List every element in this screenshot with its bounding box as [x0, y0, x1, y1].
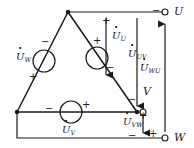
- terminal-w-ring: [162, 135, 168, 141]
- label-source-u: UU: [112, 31, 126, 42]
- sign-v-terminal-minus: −: [128, 95, 136, 105]
- phasor-dot-icon: [126, 112, 128, 114]
- sign-left-source-plus: +: [29, 72, 37, 82]
- sign-u-terminal-minus: −: [152, 6, 160, 16]
- line-wu-base: U: [140, 62, 148, 73]
- terminal-label-w: W: [174, 132, 185, 143]
- label-source-w: UW: [16, 52, 31, 63]
- terminal-label-v: V: [143, 86, 151, 97]
- line-wu-sub: WU: [148, 67, 160, 75]
- source-u-circle: [86, 47, 108, 69]
- source-u-sub: U: [120, 35, 125, 43]
- circuit-diagram-figure: U V W UW UU UV UUV UWU UVW − + + − − + +…: [0, 0, 194, 148]
- source-v-circle: [60, 101, 82, 123]
- line-uv-sub: UV: [136, 53, 146, 61]
- source-v-base: U: [62, 124, 70, 135]
- sign-right-source-minus: −: [106, 63, 114, 73]
- terminal-u-ring: [162, 9, 168, 15]
- terminal-leads: [17, 9, 168, 141]
- terminal-label-u: U: [174, 6, 183, 17]
- sign-bottom-source-minus: −: [45, 104, 53, 114]
- sign-u-arrow-plus: +: [102, 16, 110, 26]
- line-uv-base: U: [128, 48, 136, 59]
- label-source-v: UV: [62, 125, 75, 136]
- phasor-dot-icon: [115, 26, 117, 28]
- source-u-base: U: [112, 30, 120, 41]
- phasor-dot-icon: [143, 58, 145, 60]
- phasor-dot-icon: [131, 44, 133, 46]
- phasor-dot-icon: [19, 47, 21, 49]
- sign-w-terminal-minus: −: [128, 131, 136, 141]
- phasor-dot-icon: [65, 120, 67, 122]
- sign-w-terminal-plus: +: [149, 129, 157, 139]
- source-w-base: U: [16, 51, 24, 62]
- source-w-sub: W: [24, 56, 31, 64]
- sign-bottom-source-plus: +: [82, 100, 90, 110]
- sign-left-source-minus: −: [41, 37, 49, 47]
- sign-v-terminal-plus: +: [139, 111, 147, 121]
- line-vw-base: U: [123, 116, 131, 127]
- sign-right-source-plus: +: [93, 36, 101, 46]
- label-line-wu: UWU: [140, 63, 161, 74]
- line-vw-sub: VW: [131, 121, 142, 129]
- source-v-sub: V: [70, 129, 75, 137]
- source-w-circle: [33, 50, 55, 72]
